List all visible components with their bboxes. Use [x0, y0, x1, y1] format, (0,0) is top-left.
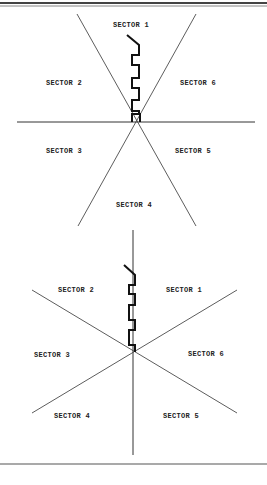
sector-label: SECTOR 5	[175, 147, 211, 155]
step-path	[127, 35, 140, 122]
sector-label: SECTOR 1	[113, 21, 149, 29]
top-sector-diagram: SECTOR 1 SECTOR 2 SECTOR 6 SECTOR 3 SECT…	[17, 14, 255, 226]
sector-label: SECTOR 1	[166, 286, 202, 294]
sector-label: SECTOR 2	[58, 286, 94, 294]
sector-label: SECTOR 3	[34, 351, 70, 359]
sector-label: SECTOR 3	[46, 147, 82, 155]
sector-label: SECTOR 2	[46, 79, 82, 87]
sector-label: SECTOR 6	[188, 350, 224, 358]
sector-label: SECTOR 4	[54, 412, 90, 420]
bottom-sector-diagram: SECTOR 2 SECTOR 1 SECTOR 3 SECTOR 6 SECT…	[32, 230, 237, 455]
sector-label: SECTOR 6	[180, 79, 216, 87]
diagram-canvas: SECTOR 1 SECTOR 2 SECTOR 6 SECTOR 3 SECT…	[0, 0, 267, 485]
sector-label: SECTOR 5	[163, 412, 199, 420]
sector-label: SECTOR 4	[116, 201, 152, 209]
